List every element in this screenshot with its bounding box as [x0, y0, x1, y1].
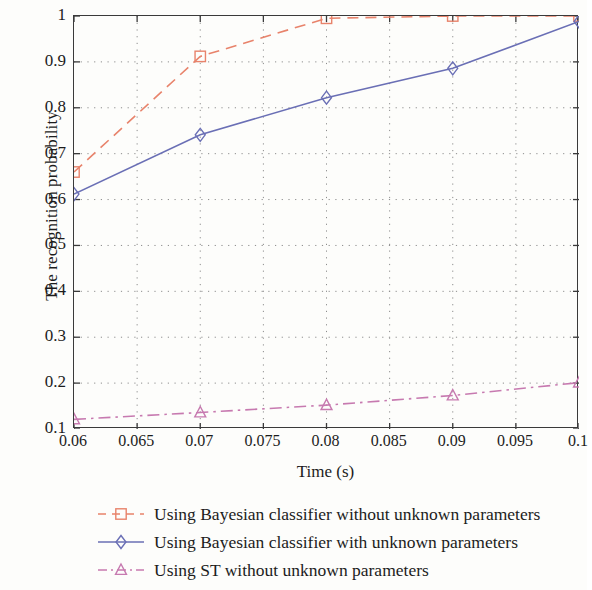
- y-tick-label: 0.5: [6, 235, 66, 252]
- y-tick-label: 1: [6, 6, 66, 23]
- x-tick-label: 0.06: [38, 433, 108, 449]
- y-tick-label: 0.7: [6, 144, 66, 161]
- x-axis-label: Time (s): [73, 462, 578, 482]
- y-tick-label: 0.9: [6, 52, 66, 69]
- plot-svg: [74, 16, 579, 429]
- legend-sample-square: [98, 504, 144, 524]
- x-tick-label: 0.08: [291, 433, 361, 449]
- legend-sample-triangle: [98, 560, 144, 580]
- legend-label: Using ST without unknown parameters: [144, 560, 429, 581]
- x-tick-label: 0.1: [543, 433, 592, 449]
- legend-label: Using Bayesian classifier with unknown p…: [144, 532, 518, 553]
- legend-item-1: Using Bayesian classifier without unknow…: [98, 500, 578, 528]
- x-tick-label: 0.075: [227, 433, 297, 449]
- y-tick-label: 0.4: [6, 281, 66, 298]
- legend-item-3: Using ST without unknown parameters: [98, 556, 578, 584]
- legend-sample-diamond: [98, 532, 144, 552]
- legend-item-2: Using Bayesian classifier with unknown p…: [98, 528, 578, 556]
- axis-ticks: [74, 16, 579, 429]
- legend-label: Using Bayesian classifier without unknow…: [144, 504, 540, 525]
- data-series-3: [74, 377, 579, 424]
- series-line: [74, 383, 579, 420]
- y-tick-label: 0.6: [6, 190, 66, 207]
- gridlines: [74, 16, 579, 429]
- x-tick-label: 0.085: [354, 433, 424, 449]
- x-tick-label: 0.07: [164, 433, 234, 449]
- data-point-marker: [574, 377, 579, 387]
- x-tick-label: 0.09: [417, 433, 487, 449]
- series-line: [74, 16, 579, 172]
- y-tick-label: 0.8: [6, 98, 66, 115]
- plot-area: [73, 15, 578, 428]
- y-tick-label: 0.3: [6, 327, 66, 344]
- y-tick-label: 0.2: [6, 373, 66, 390]
- x-tick-label: 0.065: [101, 433, 171, 449]
- legend: Using Bayesian classifier without unknow…: [98, 500, 578, 584]
- x-tick-label: 0.095: [480, 433, 550, 449]
